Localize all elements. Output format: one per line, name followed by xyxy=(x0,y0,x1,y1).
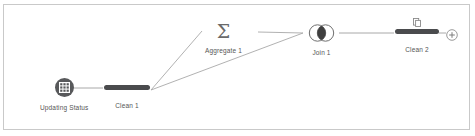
sigma-icon: Σ xyxy=(217,22,230,41)
add-step-button[interactable] xyxy=(446,27,458,39)
node-clean-2[interactable]: Clean 2 xyxy=(395,18,439,53)
node-label-updating-status: Updating Status xyxy=(40,104,89,111)
node-join-1[interactable]: Join 1 xyxy=(306,24,337,56)
flow-canvas[interactable]: Updating Status Clean 1 Σ Aggregate 1 Jo… xyxy=(0,0,475,136)
node-label-clean-2: Clean 2 xyxy=(405,46,428,53)
clean-step-bar-icon xyxy=(104,85,150,90)
node-label-join-1: Join 1 xyxy=(312,49,330,56)
plus-circle-icon xyxy=(446,29,458,41)
node-label-aggregate-1: Aggregate 1 xyxy=(205,47,242,54)
clean-step-bar-icon xyxy=(395,29,439,34)
document-page-icon xyxy=(413,18,421,27)
node-clean-1[interactable]: Clean 1 xyxy=(104,85,150,109)
node-updating-status[interactable]: Updating Status xyxy=(40,78,89,111)
node-aggregate-1[interactable]: Σ Aggregate 1 xyxy=(205,22,242,54)
node-label-clean-1: Clean 1 xyxy=(115,102,138,109)
table-grid-icon xyxy=(55,78,74,97)
venn-join-icon xyxy=(306,24,337,42)
